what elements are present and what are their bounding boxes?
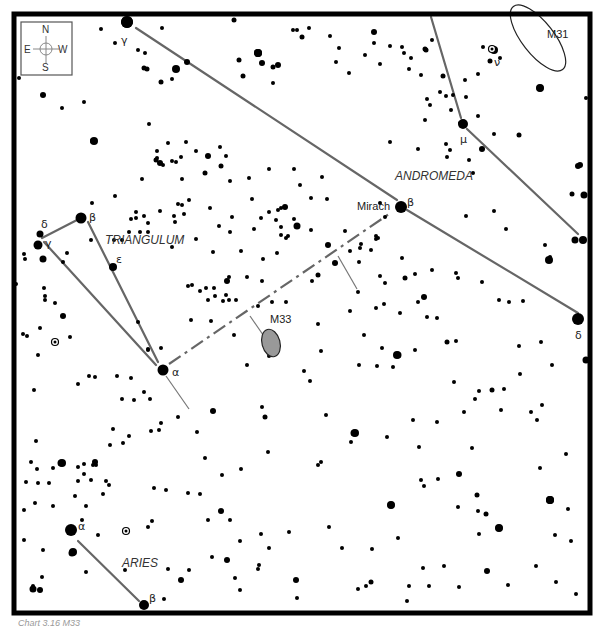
star: [40, 92, 46, 98]
star: [464, 214, 468, 218]
star: [36, 353, 40, 357]
star: [65, 251, 69, 255]
star: [174, 160, 178, 164]
star: [488, 59, 493, 64]
bright-star: [90, 137, 98, 145]
constellation-name: TRIANGULUM: [105, 233, 184, 247]
star: [423, 47, 428, 52]
star: [456, 471, 462, 477]
bright-star: [545, 256, 553, 264]
star: [115, 374, 119, 378]
star: [564, 452, 568, 456]
star: [159, 346, 163, 350]
star: [279, 225, 283, 229]
bright-star: [40, 256, 47, 263]
star: [391, 365, 395, 369]
star: [136, 320, 140, 324]
bright-star: [37, 231, 44, 238]
bright-star: [387, 501, 395, 509]
star: [584, 96, 588, 100]
star: [295, 28, 299, 32]
star: [47, 481, 51, 485]
bright-star: [458, 119, 468, 129]
star: [363, 53, 367, 57]
star: [484, 568, 490, 574]
star: [554, 580, 558, 584]
star: [32, 388, 36, 392]
star: [101, 492, 105, 496]
star: [452, 380, 456, 384]
star: [187, 568, 191, 572]
star: [266, 450, 270, 454]
star: [378, 62, 382, 66]
star: [41, 548, 45, 552]
greek-letter-label: γ: [121, 34, 128, 47]
star: [127, 434, 131, 438]
star: [24, 480, 28, 484]
bright-star: [65, 524, 77, 536]
star: [194, 237, 198, 241]
star: [208, 206, 212, 210]
star: [228, 518, 232, 522]
bright-star: [393, 351, 401, 359]
star: [158, 209, 162, 213]
star: [348, 249, 352, 253]
star: [267, 546, 271, 550]
star: [444, 142, 448, 146]
star: [356, 587, 360, 591]
star: [327, 525, 331, 529]
star: [569, 539, 573, 543]
star: [292, 167, 296, 171]
star: [274, 218, 278, 222]
star: [300, 35, 305, 40]
star: [82, 472, 86, 476]
star: [22, 252, 26, 256]
star: [22, 538, 26, 542]
star: [477, 532, 481, 536]
star: [462, 410, 466, 414]
star: [228, 230, 232, 234]
star: [271, 81, 275, 85]
star: [308, 379, 312, 383]
m31-label: M31: [547, 28, 568, 40]
star: [146, 347, 150, 351]
star: [259, 60, 265, 66]
star: [51, 466, 55, 470]
star: [82, 462, 86, 466]
star: [203, 456, 207, 460]
star: [43, 294, 47, 298]
star: [572, 237, 579, 244]
star: [43, 298, 47, 302]
greek-letter-label: μ: [460, 133, 467, 146]
star: [224, 557, 230, 563]
star: [84, 570, 88, 574]
star: [435, 420, 439, 424]
star: [374, 306, 378, 310]
star: [194, 149, 198, 153]
star: [178, 577, 184, 583]
star: [449, 108, 453, 112]
star: [276, 208, 280, 212]
star: [90, 201, 94, 205]
star: [456, 505, 460, 509]
star: [441, 74, 446, 79]
star: [198, 492, 202, 496]
star: [575, 163, 581, 169]
star: [121, 441, 125, 445]
star: [553, 533, 557, 537]
star: [398, 311, 402, 315]
star: [476, 509, 480, 513]
star: [233, 576, 237, 580]
greek-letter-label: α: [78, 520, 85, 533]
bright-star: [121, 16, 133, 28]
bright-star: [546, 496, 554, 504]
star: [356, 290, 360, 294]
greek-letter-label: α: [172, 366, 179, 379]
star: [170, 77, 174, 81]
star: [60, 313, 66, 319]
star: [232, 333, 236, 337]
star: [224, 293, 228, 297]
figure-caption: Chart 3.16 M33: [18, 618, 80, 628]
star: [421, 566, 425, 570]
star: [184, 140, 188, 144]
